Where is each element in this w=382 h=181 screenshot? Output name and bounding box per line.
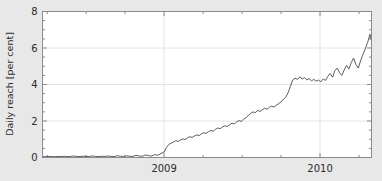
x-axis-tick-label: 2009 — [151, 163, 176, 174]
y-axis-tick-label: 8 — [31, 6, 37, 17]
y-axis-tick-label: 4 — [31, 79, 37, 90]
y-axis-title: Daily reach [per cent] — [4, 32, 15, 136]
y-axis-tick-label: 6 — [31, 43, 37, 54]
x-axis-tick-label: 2010 — [307, 163, 332, 174]
y-axis-tick-label: 2 — [31, 116, 37, 127]
y-axis-tick-label: 0 — [31, 152, 37, 163]
daily-reach-line-chart: 02468 20092010 Daily reach [per cent] — [0, 0, 382, 181]
chart-figure: 02468 20092010 Daily reach [per cent] — [0, 0, 382, 181]
